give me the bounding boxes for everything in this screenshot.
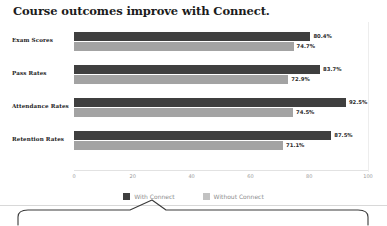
x-tick-label: 20 <box>130 173 136 179</box>
x-tick-label: 100 <box>363 173 373 179</box>
bar-value-label: 80.4% <box>313 32 331 41</box>
callout-bubble <box>0 199 387 226</box>
bar-value-label: 83.7% <box>323 65 341 74</box>
bar-with-connect <box>74 65 320 74</box>
bar-without-connect <box>74 75 288 84</box>
category-label: Exam Scores <box>12 37 70 44</box>
chart-row: Exam Scores80.4%74.7% <box>0 28 387 61</box>
bar-value-label: 74.7% <box>297 42 315 51</box>
callout-outline <box>0 199 387 226</box>
bar-value-label: 92.5% <box>349 98 367 107</box>
bar-chart: Exam Scores80.4%74.7%Pass Rates83.7%72.9… <box>0 22 387 182</box>
bar-group: 80.4%74.7% <box>74 30 368 59</box>
bar-value-label: 87.5% <box>334 131 352 140</box>
category-label: Retention Rates <box>12 136 70 143</box>
bar-without-connect <box>74 108 293 117</box>
bar-group: 92.5%74.5% <box>74 96 368 125</box>
category-label: Attendance Rates <box>12 103 70 110</box>
chart-row: Pass Rates83.7%72.9% <box>0 61 387 94</box>
bar-with-connect <box>74 131 331 140</box>
page-title: Course outcomes improve with Connect. <box>13 4 270 18</box>
x-axis-line <box>74 170 368 171</box>
bar-without-connect <box>74 141 283 150</box>
x-axis-ticks: 020406080100 <box>74 173 368 183</box>
bar-with-connect <box>74 32 310 41</box>
chart-slide: Course outcomes improve with Connect. Ex… <box>0 0 387 226</box>
bar-value-label: 71.1% <box>286 141 304 150</box>
x-tick-label: 80 <box>306 173 312 179</box>
chart-row: Attendance Rates92.5%74.5% <box>0 94 387 127</box>
bar-value-label: 74.5% <box>296 108 314 117</box>
chart-row: Retention Rates87.5%71.1% <box>0 127 387 160</box>
bar-with-connect <box>74 98 346 107</box>
bar-group: 87.5%71.1% <box>74 129 368 158</box>
x-tick-label: 60 <box>247 173 253 179</box>
bar-group: 83.7%72.9% <box>74 63 368 92</box>
x-tick-label: 40 <box>188 173 194 179</box>
category-label: Pass Rates <box>12 70 70 77</box>
bar-value-label: 72.9% <box>291 75 309 84</box>
x-tick-label: 0 <box>72 173 75 179</box>
bar-without-connect <box>74 42 294 51</box>
